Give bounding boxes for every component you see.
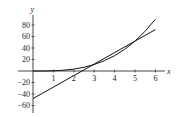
x-axis-label: x: [166, 67, 171, 76]
tangent-line-series: [33, 30, 155, 99]
x-tick-label: 4: [113, 74, 117, 83]
x-ticks: 123456: [51, 70, 157, 84]
chart: x y 123456 80604020−20−40−60: [0, 0, 179, 117]
x-tick-label: 1: [51, 74, 55, 83]
x-tick-label: 3: [92, 74, 96, 83]
x-tick-label: 5: [133, 74, 137, 83]
y-axis-label: y: [30, 5, 35, 14]
y-tick-label: 80: [22, 21, 30, 30]
y-tick-label: −40: [17, 90, 30, 99]
y-ticks: 80604020−20−40−60: [17, 21, 34, 111]
y-tick-label: 40: [22, 44, 30, 53]
y-tick-label: −20: [17, 78, 30, 87]
y-tick-label: −60: [17, 101, 30, 110]
curve-series: [33, 19, 155, 71]
axes: x y: [18, 5, 171, 113]
y-tick-label: 20: [22, 55, 30, 64]
y-tick-label: 60: [22, 32, 30, 41]
x-tick-label: 6: [153, 74, 157, 83]
